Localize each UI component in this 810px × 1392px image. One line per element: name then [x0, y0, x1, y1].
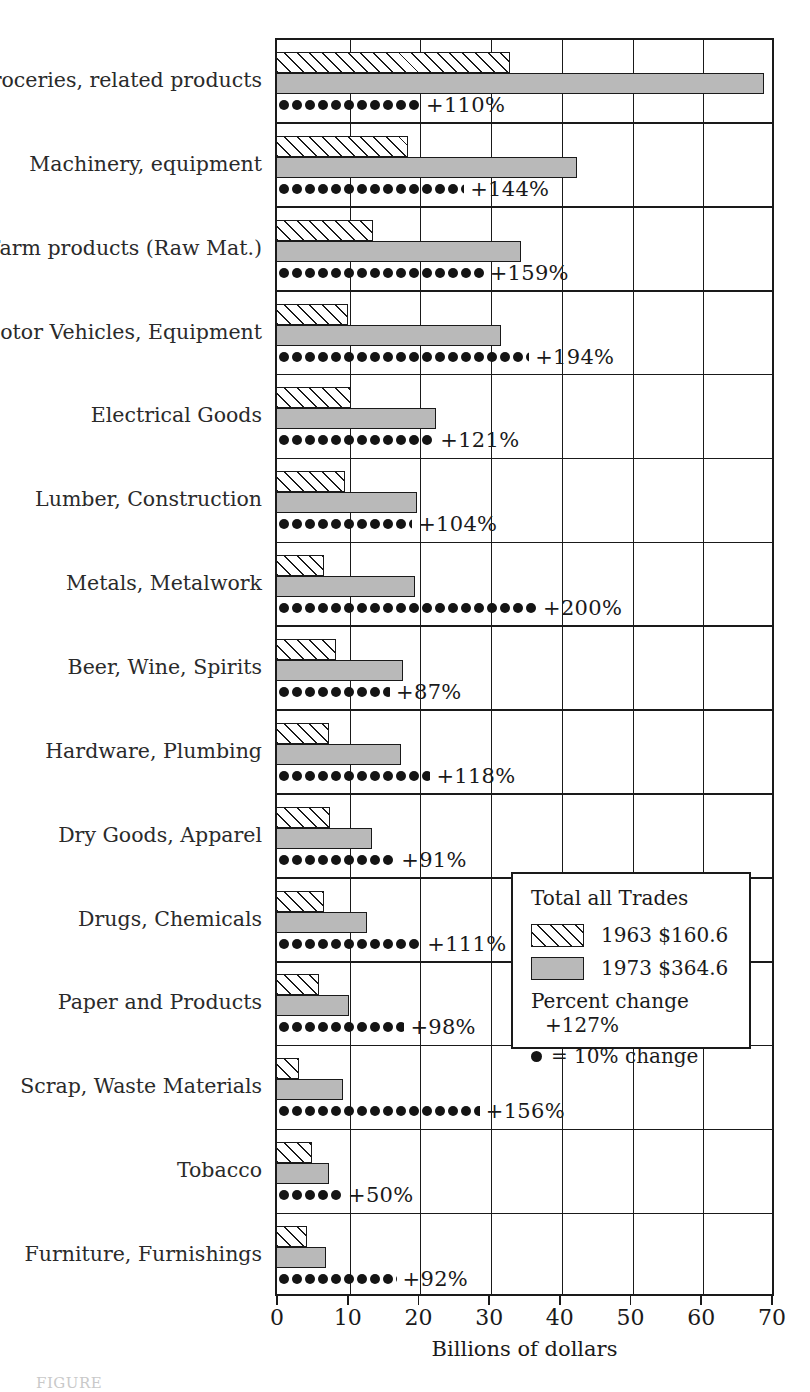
percent-dot-icon: [474, 352, 484, 362]
percent-dot-icon: [474, 603, 484, 613]
percent-dot-icon: [396, 1274, 397, 1284]
x-tick-label-20: 20: [404, 1305, 432, 1330]
legend-label-1973: 1973 $364.6: [601, 956, 728, 980]
percent-dot-icon: [279, 603, 289, 613]
bar-group: +194%: [277, 292, 772, 376]
percent-dot-icon: [422, 1106, 432, 1116]
percent-change-row: +104%: [277, 514, 497, 534]
bar-group: +121%: [277, 375, 772, 459]
x-axis-title: Billions of dollars: [275, 1337, 774, 1361]
percent-dot-icon: [422, 603, 432, 613]
percent-dot-icon: [422, 268, 432, 278]
category-label: Farm products (Raw Mat.): [0, 237, 262, 259]
percent-dot-icon: [422, 352, 432, 362]
percent-dot-icon: [396, 1022, 404, 1032]
percent-dot-icon: [279, 352, 289, 362]
percent-dot-icon: [474, 268, 484, 278]
percent-dot-icon: [409, 100, 419, 110]
percent-dot-icon: [305, 1106, 315, 1116]
bar-1973: [277, 995, 349, 1016]
percent-dot-icon: [331, 1022, 341, 1032]
percent-dot-icon: [344, 184, 354, 194]
percent-dot-icon: [305, 435, 315, 445]
percent-change-label: +91%: [401, 850, 466, 870]
percent-dot-icon: [513, 352, 523, 362]
percent-dot-icon: [344, 435, 354, 445]
percent-dot-icon: [448, 352, 458, 362]
category-label: Motor Vehicles, Equipment: [0, 321, 262, 343]
percent-dot-icon: [279, 519, 289, 529]
percent-dot-icon: [474, 1106, 480, 1116]
percent-dot-icon: [331, 855, 341, 865]
x-tick-20: [418, 1296, 420, 1305]
percent-dot-icon: [331, 939, 341, 949]
x-tick-10: [347, 1296, 349, 1305]
percent-dot-icon: [396, 435, 406, 445]
percent-dot-icon: [370, 939, 380, 949]
percent-dot-icon: [344, 519, 354, 529]
percent-dot-icon: [344, 100, 354, 110]
percent-dot-icon: [409, 939, 419, 949]
percent-dot-icon: [370, 1106, 380, 1116]
x-tick-label-30: 30: [475, 1305, 503, 1330]
bar-1963: [277, 1142, 312, 1163]
percent-dot-icon: [292, 1190, 302, 1200]
percent-dots: [277, 598, 537, 618]
bar-group: +200%: [277, 543, 772, 627]
category-label: Metals, Metalwork: [66, 572, 262, 594]
percent-dot-icon: [305, 1274, 315, 1284]
percent-dot-icon: [357, 519, 367, 529]
percent-dot-icon: [292, 352, 302, 362]
percent-dot-icon: [279, 1274, 289, 1284]
percent-dot-icon: [318, 939, 328, 949]
bar-1973: [277, 1163, 329, 1184]
percent-dot-icon: [292, 603, 302, 613]
percent-dot-icon: [357, 1022, 367, 1032]
percent-dot-icon: [383, 352, 393, 362]
legend-dot-icon: [531, 1051, 542, 1062]
percent-dot-icon: [357, 855, 367, 865]
percent-dot-icon: [383, 939, 393, 949]
percent-dots: [277, 934, 421, 954]
percent-dot-icon: [331, 1274, 341, 1284]
percent-dot-icon: [409, 771, 419, 781]
category-label: Scrap, Waste Materials: [20, 1075, 262, 1097]
legend-percent-change-label: Percent change: [531, 989, 689, 1013]
percent-dot-icon: [383, 519, 393, 529]
legend-entry-1963: 1963 $160.6: [531, 923, 749, 947]
legend-dot-key-label: = 10% change: [551, 1044, 698, 1068]
percent-dots: [277, 347, 529, 367]
bar-1963: [277, 52, 510, 73]
percent-dots: [277, 682, 390, 702]
percent-dot-icon: [409, 435, 419, 445]
percent-dot-icon: [279, 939, 289, 949]
percent-dot-icon: [435, 268, 445, 278]
legend-swatch-solid-icon: [531, 957, 584, 980]
percent-change-label: +118%: [436, 766, 515, 786]
bar-1973: [277, 157, 577, 178]
percent-dots: [277, 179, 464, 199]
x-tick-label-40: 40: [546, 1305, 574, 1330]
bar-1963: [277, 639, 336, 660]
percent-dot-icon: [500, 352, 510, 362]
percent-dot-icon: [383, 603, 393, 613]
percent-dot-icon: [344, 939, 354, 949]
x-tick-label-70: 70: [758, 1305, 786, 1330]
bar-1963: [277, 136, 408, 157]
percent-dot-icon: [318, 855, 328, 865]
percent-change-row: +110%: [277, 95, 505, 115]
percent-dot-icon: [279, 1022, 289, 1032]
chart-legend: Total all Trades 1963 $160.6 1973 $364.6…: [511, 872, 751, 1049]
percent-dots: [277, 514, 412, 534]
x-tick-50: [630, 1296, 632, 1305]
percent-dot-icon: [370, 855, 380, 865]
percent-dot-icon: [305, 268, 315, 278]
percent-change-label: +121%: [440, 430, 519, 450]
percent-dot-icon: [370, 519, 380, 529]
percent-dot-icon: [331, 1106, 341, 1116]
bar-group: +159%: [277, 208, 772, 292]
percent-dot-icon: [292, 687, 302, 697]
percent-dots: [277, 1017, 404, 1037]
bar-1973: [277, 576, 415, 597]
percent-change-label: +194%: [535, 347, 614, 367]
